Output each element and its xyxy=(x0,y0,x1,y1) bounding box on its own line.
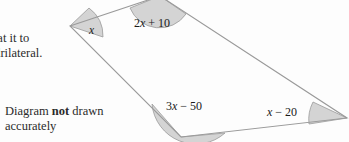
instruction-text: Show that it to is a quadrilateral. xyxy=(0,31,42,61)
diagram-page: Show that it to is a quadrilateral. Diag… xyxy=(0,0,349,142)
angle-label-bottom: 3x − 50 xyxy=(166,99,202,114)
angle-label-bottom-constant: − 50 xyxy=(177,99,202,113)
angle-label-top: 2x + 10 xyxy=(134,16,170,31)
angle-label-right: x − 20 xyxy=(267,105,297,120)
angle-label-left: x xyxy=(89,24,94,36)
angle-label-right-constant: − 20 xyxy=(272,105,297,119)
instruction-line-2: is a quadrilateral. xyxy=(0,46,42,61)
note-line-1: Diagram not drawn xyxy=(5,104,104,119)
angle-label-left-variable: x xyxy=(89,24,94,36)
angle-arc-group xyxy=(70,0,347,142)
angle-label-top-constant: + 10 xyxy=(145,16,170,30)
note-emphasis: not xyxy=(52,104,69,118)
not-drawn-accurately-note: Diagram not drawn accurately xyxy=(5,104,104,134)
instruction-line-1: Show that it to xyxy=(0,31,42,46)
angle-arc-left xyxy=(70,8,103,37)
note-line-2: accurately xyxy=(5,119,104,134)
note-suffix: drawn xyxy=(69,104,103,118)
note-prefix: Diagram xyxy=(5,104,52,118)
quadrilateral-outline xyxy=(70,0,347,137)
